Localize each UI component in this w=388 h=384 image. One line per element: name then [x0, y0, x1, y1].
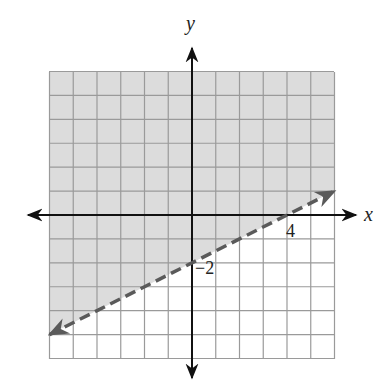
x-intercept-label: 4 — [286, 221, 295, 241]
y-axis-label: y — [184, 12, 195, 35]
x-axis-label: x — [363, 203, 373, 225]
inequality-graph: y x 4 −2 — [0, 0, 388, 384]
y-intercept-label: −2 — [195, 258, 214, 278]
